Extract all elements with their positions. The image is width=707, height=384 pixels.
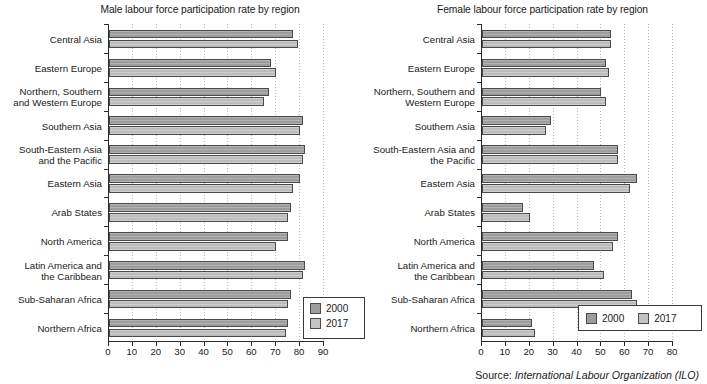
bar-2000[interactable] <box>482 145 618 154</box>
bar-2017[interactable] <box>109 329 286 338</box>
chart-page: Male labour force participation rate by … <box>0 0 707 384</box>
bar-2000[interactable] <box>109 174 300 183</box>
legend-item-2017[interactable]: 2017 <box>638 313 676 324</box>
legend-swatch-2017-icon <box>310 318 321 329</box>
x-axis-tick <box>553 342 554 346</box>
bar-2000[interactable] <box>482 30 611 39</box>
x-axis-tick <box>505 342 506 346</box>
x-axis-tick-label: 10 <box>127 346 138 357</box>
legend-label-2017: 2017 <box>654 313 676 324</box>
bar-2017[interactable] <box>109 300 288 309</box>
x-axis-tick <box>481 342 482 346</box>
category-label: Eastern Asia <box>335 178 475 189</box>
category-group: Arab States <box>481 197 673 226</box>
x-axis-tick-label: 40 <box>198 346 209 357</box>
bar-2000[interactable] <box>482 203 523 212</box>
bar-2017[interactable] <box>482 184 630 193</box>
category-label: Eastern Europe <box>335 63 475 74</box>
bar-2000[interactable] <box>109 116 303 125</box>
category-label: South-Eastern Asia and the Pacific <box>0 144 102 166</box>
category-tick <box>477 197 481 198</box>
category-group: Eastern Asia <box>108 169 324 198</box>
category-tick <box>104 111 108 112</box>
category-group: Central Asia <box>108 24 324 53</box>
bar-2017[interactable] <box>482 155 618 164</box>
category-group: South-Eastern Asia and the Pacific <box>108 140 324 169</box>
bar-2017[interactable] <box>109 97 264 106</box>
bar-2000[interactable] <box>482 59 606 68</box>
bar-2000[interactable] <box>482 290 632 299</box>
category-group: Northern, Southern and Western Europe <box>481 82 673 111</box>
category-label: Central Asia <box>0 34 102 45</box>
bar-2017[interactable] <box>482 329 535 338</box>
bar-2000[interactable] <box>109 261 305 270</box>
bar-2017[interactable] <box>482 213 530 222</box>
bar-2017[interactable] <box>109 184 293 193</box>
category-tick <box>104 140 108 141</box>
plot-area-male: Central AsiaEastern EuropeNorthern, Sout… <box>108 24 324 342</box>
category-label: Eastern Asia <box>0 178 102 189</box>
source-label: Source: <box>475 369 512 381</box>
category-label: Eastern Europe <box>0 63 102 74</box>
bar-2000[interactable] <box>109 290 291 299</box>
category-tick <box>477 169 481 170</box>
category-group: South-Eastern Asia and the Pacific <box>481 140 673 169</box>
bar-2017[interactable] <box>109 155 303 164</box>
bar-2000[interactable] <box>109 319 288 328</box>
bar-2000[interactable] <box>109 88 269 97</box>
bar-2000[interactable] <box>482 116 551 125</box>
bar-2000[interactable] <box>109 203 291 212</box>
bar-2017[interactable] <box>109 213 288 222</box>
bar-2017[interactable] <box>482 242 613 251</box>
x-axis-tick-label: 0 <box>105 346 110 357</box>
bar-2000[interactable] <box>482 319 532 328</box>
x-axis-tick-label: 70 <box>270 346 281 357</box>
bar-2017[interactable] <box>109 242 276 251</box>
x-axis-tick <box>156 342 157 346</box>
bar-2000[interactable] <box>482 232 618 241</box>
x-axis-labels-male: 0102030405060708090 <box>108 342 324 360</box>
category-label: Sub-Saharan Africa <box>0 294 102 305</box>
category-group: Southern Asia <box>108 111 324 140</box>
category-tick <box>104 197 108 198</box>
x-axis-tick <box>275 342 276 346</box>
bar-2000[interactable] <box>109 145 305 154</box>
bar-2000[interactable] <box>109 59 271 68</box>
bar-2017[interactable] <box>109 271 303 280</box>
bar-2000[interactable] <box>482 174 637 183</box>
category-tick <box>477 255 481 256</box>
category-label: Northern Africa <box>0 323 102 334</box>
bar-2017[interactable] <box>482 126 546 135</box>
category-tick <box>477 226 481 227</box>
bar-2017[interactable] <box>109 40 298 49</box>
category-label: North America <box>0 236 102 247</box>
x-axis-tick-label: 60 <box>246 346 257 357</box>
category-label: Latin America and the Caribbean <box>335 260 475 282</box>
category-group: Southern Asia <box>481 111 673 140</box>
bar-2000[interactable] <box>109 30 293 39</box>
x-axis-tick <box>132 342 133 346</box>
legend-item-2000[interactable]: 2000 <box>586 313 624 324</box>
category-group: Eastern Asia <box>481 169 673 198</box>
category-tick <box>104 169 108 170</box>
bar-2017[interactable] <box>109 68 276 77</box>
bar-2000[interactable] <box>482 261 594 270</box>
category-tick <box>477 284 481 285</box>
bar-2017[interactable] <box>482 40 611 49</box>
bar-2000[interactable] <box>482 88 601 97</box>
bar-2017[interactable] <box>482 68 609 77</box>
category-group: Northern, Southern and Western Europe <box>108 82 324 111</box>
category-group: Latin America and the Caribbean <box>108 255 324 284</box>
x-axis-tick <box>672 342 673 346</box>
bar-2017[interactable] <box>482 97 606 106</box>
legend-female: 2000 2017 <box>578 305 702 331</box>
category-tick <box>477 140 481 141</box>
bar-2017[interactable] <box>109 126 300 135</box>
x-axis-tick <box>108 342 109 346</box>
bar-2000[interactable] <box>109 232 288 241</box>
category-label: Southern Asia <box>0 121 102 132</box>
x-axis-tick-label: 80 <box>667 346 678 357</box>
bar-2017[interactable] <box>482 271 604 280</box>
category-label: Southern Asia <box>335 121 475 132</box>
x-axis-tick <box>227 342 228 346</box>
